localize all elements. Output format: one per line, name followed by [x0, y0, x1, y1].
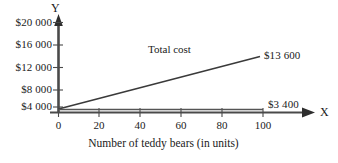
y-axis-letter: Y	[51, 2, 60, 14]
y-axis-arrowhead	[54, 14, 63, 26]
x-tick-label-100: 100	[249, 120, 277, 131]
x-axis-title: Number of teddy bears (in units)	[56, 138, 271, 150]
y-tick-label-20000: $20 000	[0, 17, 52, 28]
x-axis-arrowhead	[302, 108, 315, 118]
x-tick-label-60: 60	[168, 120, 194, 131]
x-tick-label-40: 40	[127, 120, 153, 131]
series-line-total-cost	[59, 57, 261, 110]
series-annotation-total-cost: Total cost	[148, 44, 191, 55]
y-tick-label-4000: $4 000	[0, 101, 52, 112]
series-end-label-fixed-cost: $3 400	[268, 99, 299, 110]
x-tick-label-80: 80	[209, 120, 235, 131]
y-tick-label-12000: $12 000	[0, 62, 52, 73]
chart-container: $20 000 $16 000 $12 000 $8 000 $4 000 0 …	[0, 0, 338, 163]
y-tick-label-8000: $8 000	[0, 84, 52, 95]
x-axis-letter: X	[320, 106, 329, 118]
series-end-label-total-cost: $13 600	[264, 50, 300, 61]
x-tick-label-20: 20	[86, 120, 112, 131]
y-tick-label-16000: $16 000	[0, 39, 52, 50]
x-tick-label-0: 0	[46, 120, 71, 131]
